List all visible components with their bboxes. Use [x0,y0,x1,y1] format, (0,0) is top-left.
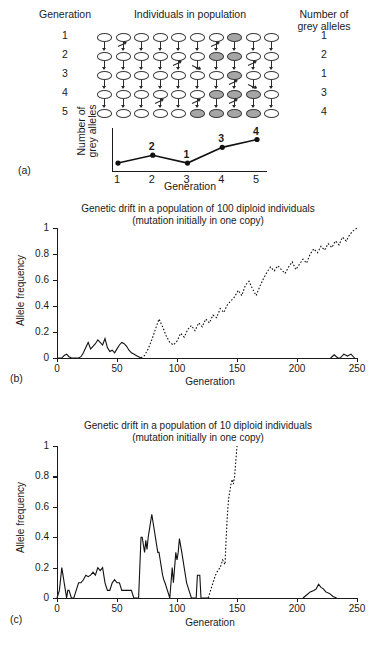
x-tick-mark [357,358,358,362]
individual-row [96,71,282,80]
x-tick-label: 0 [44,603,70,614]
mini-chart-point [115,160,120,165]
chart-b-title: Genetic drift in a population of 100 dip… [33,203,363,227]
individual-oval-white [97,33,112,42]
chart-series-solid [57,339,141,359]
inheritance-arrow [123,99,124,107]
inheritance-arrow [234,61,235,69]
x-tick-label: 200 [284,603,310,614]
mini-x-tick-label: 1 [114,173,120,185]
y-tick-label: 0.4 [25,531,49,542]
individual-oval-white [134,52,149,61]
mini-chart-svg [112,128,267,176]
chart-b-plot-area: 00.20.40.60.81 050100150200250 [57,228,357,358]
inheritance-arrow [178,99,179,107]
individual-oval-white [134,33,149,42]
inheritance-arrow [160,80,161,88]
grey-allele-count: 3 [283,86,365,98]
y-tick-mark [53,280,57,281]
mini-line-chart: 2134 12345 [112,128,267,176]
y-tick-label: 0 [25,592,49,603]
chart-b-x-axis-label: Generation [150,376,270,387]
x-tick-mark [357,598,358,602]
individual-oval-white [97,52,112,61]
chart-b-svg [57,228,357,358]
mini-chart-point [185,160,190,165]
mini-chart-point [220,145,225,150]
inheritance-arrow [141,42,142,50]
individual-oval-white [171,33,186,42]
individual-oval-white [153,109,168,118]
inheritance-arrow [178,42,179,50]
chart-c-x-axis [57,598,357,599]
y-tick-mark [53,332,57,333]
chart-c-title-line2: (mutation initially in one copy) [132,432,264,443]
x-tick-mark [237,598,238,602]
inheritance-arrow [123,80,124,88]
header-individuals: Individuals in population [110,9,270,21]
x-tick-mark [297,358,298,362]
individual-oval-grey [209,52,224,61]
x-tick-mark [57,598,58,602]
x-tick-mark [237,358,238,362]
x-tick-mark [297,598,298,602]
inheritance-arrow [271,80,272,88]
inheritance-arrow-row [96,42,282,52]
x-tick-mark [177,598,178,602]
chart-series-dotted [141,228,357,358]
inheritance-arrow [234,42,235,50]
panel-a-label: (a) [18,164,31,176]
inheritance-arrow [271,42,272,50]
x-tick-mark [117,598,118,602]
chart-series-solid [303,584,337,598]
inheritance-arrow-row [96,80,282,90]
x-tick-label: 50 [104,363,130,374]
inheritance-arrow [104,99,105,107]
y-tick-label: 0.6 [25,274,49,285]
y-tick-label: 0.8 [25,248,49,259]
panel-c-label: (c) [10,613,22,625]
inheritance-arrow [271,61,272,69]
mini-chart-point [150,153,155,158]
individual-oval-white [116,109,131,118]
chart-b-x-axis [57,358,357,359]
individual-oval-white [190,52,205,61]
mini-point-label: 3 [218,132,224,144]
inheritance-arrow [216,80,217,88]
x-tick-mark [117,358,118,362]
y-tick-label: 0.2 [25,562,49,573]
grey-allele-count: 1 [283,67,365,79]
individual-oval-grey [246,109,261,118]
y-tick-label: 0 [25,352,49,363]
inheritance-arrow [197,42,198,50]
inheritance-arrow [216,99,217,107]
inheritance-arrow-row [96,99,282,109]
mini-point-label: 1 [184,148,190,160]
chart-c-x-axis-label: Generation [150,617,270,628]
individual-oval-grey [209,109,224,118]
inheritance-arrow [160,42,161,50]
chart-b-y-axis-label: Allele frequency [15,246,26,336]
x-tick-label: 100 [164,363,190,374]
y-tick-label: 0.6 [25,501,49,512]
grey-allele-count: 1 [283,29,365,41]
individual-oval-white [171,90,186,99]
inheritance-arrow [197,80,198,88]
inheritance-arrow [141,80,142,88]
individual-oval-grey [209,90,224,99]
inheritance-arrow [253,99,254,107]
chart-c-y-axis [57,446,58,598]
inheritance-arrow [141,99,142,107]
header-generation: Generation [20,9,110,21]
individual-oval-white [171,71,186,80]
mini-x-axis-label: Generation [130,180,250,192]
mini-point-label: 2 [149,140,155,152]
chart-b-title-line2: (mutation initially in one copy) [132,215,264,226]
mini-x-tick-label: 5 [253,173,259,185]
y-tick-mark [53,537,57,538]
chart-series-dotted [208,446,237,598]
inheritance-arrow [160,61,161,69]
individual-oval-white [209,71,224,80]
individual-oval-white [116,71,131,80]
y-tick-mark [53,507,57,508]
